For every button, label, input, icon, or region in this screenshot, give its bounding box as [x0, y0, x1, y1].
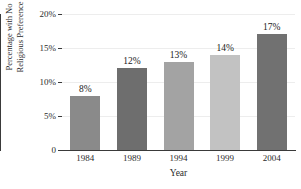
bar-value-label: 14%: [216, 43, 233, 53]
bar-series: 8%12%13%14%17%: [62, 14, 295, 150]
bar-group: 14%: [210, 43, 240, 150]
y-axis-tick-label: 20%: [40, 10, 57, 19]
bar-value-label: 12%: [123, 56, 140, 66]
x-axis-tick-label: 2004: [248, 153, 295, 164]
x-axis-tick-labels: 19841989199419992004: [62, 153, 295, 166]
y-axis-tick-label: 5%: [44, 112, 56, 121]
y-axis-line: [0, 14, 1, 151]
bar-value-label: 13%: [170, 50, 187, 60]
plot-area: 05%10%15%20% 8%12%13%14%17%: [62, 14, 295, 150]
bar-group: 17%: [257, 22, 287, 150]
bar: [70, 96, 100, 150]
y-axis-tick: [58, 150, 62, 151]
bar: [257, 34, 287, 150]
bar: [164, 62, 194, 150]
x-axis-tick-label: 1999: [202, 153, 249, 164]
bar-chart: Percentage with No Religious Preference …: [0, 0, 301, 189]
y-axis-tick-label: 0: [52, 146, 57, 155]
x-axis-title: Year: [62, 168, 295, 178]
bar: [210, 55, 240, 150]
y-axis-title: Percentage with No Religious Preference: [4, 0, 30, 106]
x-axis-tick-label: 1989: [109, 153, 156, 164]
x-axis-line: [62, 150, 296, 151]
bar-value-label: 17%: [263, 22, 280, 32]
bar-group: 12%: [117, 56, 147, 150]
bar-group: 13%: [164, 50, 194, 150]
chart-title-remnant: [0, 0, 301, 4]
x-axis-tick-label: 1984: [62, 153, 109, 164]
y-axis-tick-label: 15%: [40, 44, 57, 53]
y-axis-title-line-1: Percentage with No: [4, 0, 15, 106]
bar: [117, 68, 147, 150]
bar-group: 8%: [70, 84, 100, 150]
y-axis-title-line-2: Religious Preference: [15, 0, 26, 106]
bar-value-label: 8%: [79, 84, 92, 94]
x-axis-tick-label: 1994: [155, 153, 202, 164]
y-axis-tick-label: 10%: [40, 78, 57, 87]
